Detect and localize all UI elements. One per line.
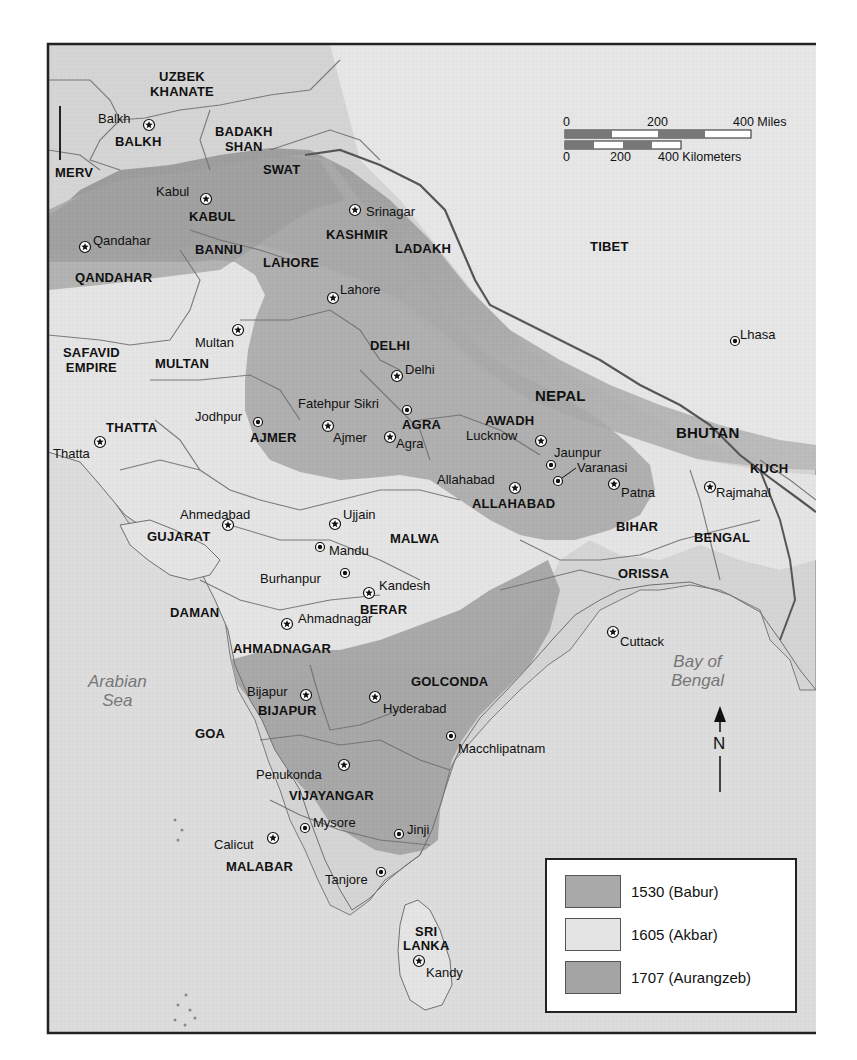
region-kuch: KUCH (750, 462, 788, 475)
region-bannu: BANNU (195, 243, 243, 256)
capital-star-icon-agra (385, 432, 396, 443)
city-tanjore: Tanjore (325, 873, 368, 886)
region-sri-lanka: SRI LANKA (403, 925, 450, 952)
region-golconda: GOLCONDA (411, 675, 488, 688)
scale-miles-400: 400 Miles (733, 116, 787, 129)
region-malabar: MALABAR (226, 860, 293, 873)
city-srinagar: Srinagar (366, 205, 415, 218)
region-lahore: LAHORE (263, 256, 319, 269)
capital-star-icon-penukonda (339, 760, 350, 771)
safavid-line2: EMPIRE (63, 361, 120, 376)
scale-miles-0: 0 (563, 116, 570, 129)
capital-star-icon-rajmahal (705, 482, 716, 493)
legend-swatch-1707 (565, 961, 621, 994)
arabian-sea-line1: Arabian (88, 673, 147, 692)
scale-miles-200: 200 (647, 116, 668, 129)
city-kandy: Kandy (426, 966, 463, 979)
city-balkh: Balkh (98, 112, 131, 125)
capital-star-icon-kandesh (364, 588, 375, 599)
scale-km-400: 400 Kilometers (658, 151, 741, 164)
capital-star-icon-qandahar (80, 242, 91, 253)
capital-star-icon-lahore (328, 293, 339, 304)
north-label: N (713, 735, 725, 752)
capital-star-icon-patna (609, 479, 620, 490)
bay-of-bengal-line1: Bay of (671, 653, 724, 672)
region-goa: GOA (195, 727, 225, 740)
region-ajmer: AJMER (250, 431, 297, 444)
city-burhanpur: Burhanpur (260, 572, 321, 585)
region-malwa: MALWA (390, 532, 439, 545)
safavid-line1: SAFAVID (63, 346, 120, 361)
region-awadh: AWADH (485, 414, 534, 427)
region-qandahar: QANDAHAR (75, 271, 152, 284)
city-ujjain: Ujjain (343, 508, 376, 521)
legend-item-1530: 1530 (Babur) (565, 875, 719, 908)
city-jaunpur: Jaunpur (554, 446, 601, 459)
badakhshan-line1: BADAKH (215, 125, 273, 140)
city-dot-icon-jinji (395, 830, 404, 839)
city-calicut: Calicut (214, 838, 254, 851)
city-ajmer: Ajmer (333, 431, 367, 444)
capital-star-icon-calicut (268, 833, 279, 844)
city-jodhpur: Jodhpur (195, 410, 242, 423)
sri-lanka-line1: SRI (403, 925, 450, 939)
city-dot-icon-jodhpur (254, 418, 263, 427)
region-kabul: KABUL (189, 210, 236, 223)
city-allahabad: Allahabad (437, 473, 495, 486)
region-orissa: ORISSA (618, 567, 669, 580)
capital-star-icon-balkh (144, 120, 155, 131)
legend: 1530 (Babur) 1605 (Akbar) 1707 (Aurangze… (545, 858, 797, 1013)
city-dot-icon-fatehpur-sikri (403, 406, 412, 415)
capital-star-icon-allahabad (510, 483, 521, 494)
city-multan: Multan (195, 336, 234, 349)
city-dot-icon-macchlipatnam (447, 732, 456, 741)
scale-km-0: 0 (563, 151, 570, 164)
region-multan: MULTAN (155, 357, 209, 370)
region-bihar: BIHAR (616, 520, 658, 533)
city-fatehpur-sikri: Fatehpur Sikri (298, 397, 379, 410)
city-dot-icon-varanasi (554, 477, 563, 486)
city-penukonda: Penukonda (256, 768, 322, 781)
city-lucknow: Lucknow (466, 429, 517, 442)
region-bhutan: BHUTAN (676, 425, 739, 440)
region-thatta: THATTA (106, 421, 157, 434)
bay-of-bengal-label: Bay of Bengal (671, 653, 724, 690)
legend-label-1707: 1707 (Aurangzeb) (631, 969, 751, 986)
city-dot-icon-lhasa (731, 337, 740, 346)
city-dot-icon-mysore (301, 824, 310, 833)
city-lhasa: Lhasa (740, 328, 775, 341)
arabian-sea-line2: Sea (88, 692, 147, 711)
city-ahmedabad: Ahmedabad (180, 508, 250, 521)
scale-km-200: 200 (610, 151, 631, 164)
uzbek-line1: UZBEK (150, 70, 214, 85)
city-rajmahal: Rajmahal (716, 486, 771, 499)
capital-star-icon-ajmer (323, 421, 334, 432)
region-uzbek-khanate: UZBEK KHANATE (150, 70, 214, 100)
region-agra: AGRA (402, 418, 441, 431)
region-vijayangar: VIJAYANGAR (289, 789, 374, 802)
city-bijapur: Bijapur (247, 685, 287, 698)
capital-star-icon-kabul (201, 194, 212, 205)
region-bijapur: BIJAPUR (258, 704, 316, 717)
region-tibet: TIBET (590, 240, 629, 253)
capital-star-icon-thatta (95, 437, 106, 448)
city-dot-icon-tanjore (377, 868, 386, 877)
city-varanasi: Varanasi (577, 461, 627, 474)
city-dot-icon-jaunpur (547, 461, 556, 470)
city-delhi: Delhi (405, 363, 435, 376)
city-hyderabad: Hyderabad (383, 702, 447, 715)
capital-star-icon-multan (233, 325, 244, 336)
legend-swatch-1605 (565, 918, 621, 951)
capital-star-icon-delhi (392, 371, 403, 382)
legend-label-1605: 1605 (Akbar) (631, 926, 718, 943)
region-gujarat: GUJARAT (147, 530, 210, 543)
capital-star-icon-cuttack (608, 627, 619, 638)
city-agra: Agra (396, 437, 423, 450)
city-mandu: Mandu (329, 544, 369, 557)
city-ahmadnagar: Ahmadnagar (298, 612, 372, 625)
capital-star-icon-bijapur (301, 690, 312, 701)
city-patna: Patna (621, 486, 655, 499)
city-kandesh: Kandesh (379, 579, 430, 592)
capital-star-icon-ahmadnagar (282, 619, 293, 630)
sri-lanka-line2: LANKA (403, 939, 450, 953)
